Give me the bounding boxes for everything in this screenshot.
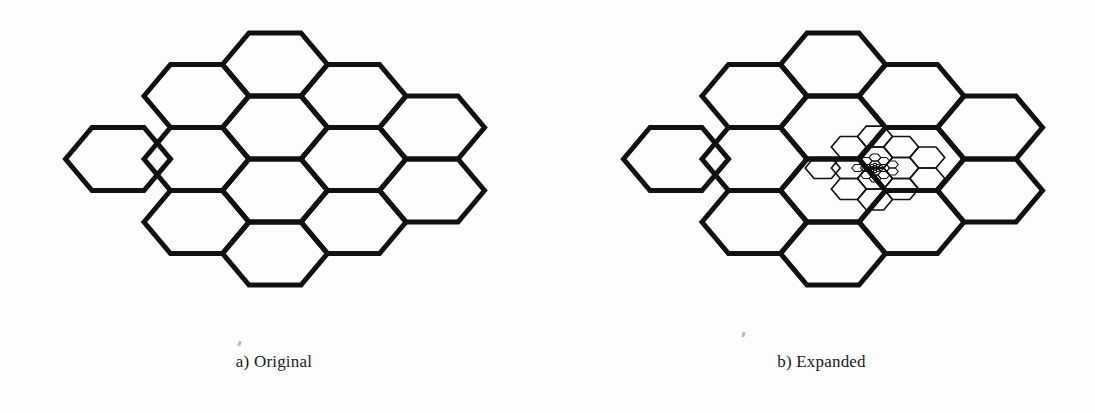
hex-cell	[910, 147, 945, 168]
hex-cell	[938, 96, 1043, 159]
hex-cell	[66, 128, 171, 191]
hex-cluster-panel-a-level-1	[66, 33, 485, 285]
hexagon-layers	[66, 33, 1043, 285]
hex-cell	[879, 168, 883, 170]
figure-page: a) Original b) Expanded	[0, 0, 1095, 413]
hex-cell	[380, 159, 485, 222]
hex-cell	[887, 161, 899, 168]
hex-cell	[938, 159, 1043, 222]
caption-panel-b: b) Expanded	[548, 352, 1095, 372]
hex-cell	[887, 168, 899, 175]
hex-cell	[380, 96, 485, 159]
hex-cell	[624, 128, 729, 191]
caption-panel-a: a) Original	[0, 352, 548, 372]
hex-cell	[852, 165, 864, 172]
hex-cell	[910, 168, 945, 189]
